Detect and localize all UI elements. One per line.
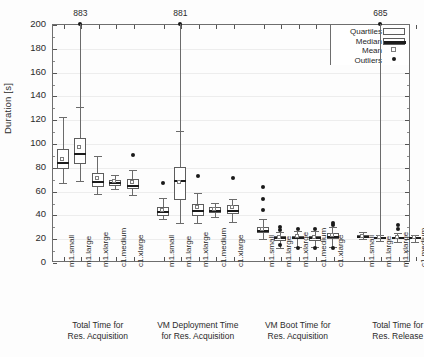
outlier-point xyxy=(296,246,300,250)
whisker-cap-upper xyxy=(159,198,167,199)
group-label-line1: Total Time for xyxy=(372,320,423,330)
whisker-cap-upper xyxy=(276,232,284,233)
group-label-line1: VM Boot Time for xyxy=(265,320,331,330)
y-axis-tick-label: 140 xyxy=(12,90,46,100)
whisker-cap-upper xyxy=(59,117,67,118)
value-annotation: 685 xyxy=(373,8,387,18)
box-plot xyxy=(92,24,104,262)
whisker-cap-upper xyxy=(194,193,202,194)
y-axis-minor-tick xyxy=(53,61,55,62)
outlier-point xyxy=(261,185,265,189)
value-annotation: 883 xyxy=(73,8,87,18)
box-plot xyxy=(209,24,221,262)
box-plot xyxy=(292,24,304,262)
x-axis-tick-label: c1.xlarge xyxy=(236,235,245,267)
outlier-point xyxy=(278,243,282,247)
whisker-cap-upper xyxy=(259,219,267,220)
chart-figure: Duration [s] QuartilesMedianMeanOutliers… xyxy=(0,0,424,357)
mean-marker xyxy=(412,235,416,239)
group-label-line2: Res. Release xyxy=(372,331,423,341)
y-axis-tick xyxy=(53,263,57,264)
whisker-cap-upper xyxy=(329,227,337,228)
group-label-line1: VM Deployment Time xyxy=(157,320,238,330)
outlier-point xyxy=(231,176,235,180)
whisker-cap-lower xyxy=(159,219,167,220)
whisker-cap-lower xyxy=(359,239,367,240)
whisker-cap-upper xyxy=(176,131,184,132)
mean-marker xyxy=(130,180,134,184)
whisker-cap-lower xyxy=(411,242,419,243)
y-axis-minor-tick xyxy=(53,204,55,205)
y-axis-minor-tick xyxy=(53,227,55,228)
whisker-cap-lower xyxy=(94,194,102,195)
y-axis-tick-label: 80 xyxy=(12,162,46,172)
y-axis-minor-tick xyxy=(53,251,55,252)
mean-marker xyxy=(277,235,281,239)
mean-marker xyxy=(160,208,164,212)
mean-marker xyxy=(230,205,234,209)
median-line xyxy=(227,210,239,212)
whisker-cap-lower xyxy=(176,223,184,224)
y-axis-minor-tick xyxy=(53,37,55,38)
mean-marker xyxy=(260,227,264,231)
outlier-point xyxy=(296,227,300,231)
box-plot xyxy=(74,24,86,262)
y-axis-tick-label: 0 xyxy=(12,257,46,267)
whisker-cap-lower xyxy=(129,195,137,196)
outlier-connector xyxy=(380,24,381,235)
whisker-cap-upper xyxy=(129,170,137,171)
median-line xyxy=(57,162,69,164)
y-axis-tick-label: 20 xyxy=(12,233,46,243)
quartile-box xyxy=(74,138,86,164)
x-axis-tick-label: c1.medium xyxy=(419,228,424,267)
y-axis-minor-tick xyxy=(53,156,55,157)
box-plot xyxy=(309,24,321,262)
whisker-cap-upper xyxy=(311,231,319,232)
box-plot xyxy=(392,24,404,262)
outlier-connector xyxy=(80,24,81,107)
mean-marker xyxy=(360,234,364,238)
mean-marker xyxy=(112,179,116,183)
y-axis-tick-label: 120 xyxy=(12,114,46,124)
mean-marker xyxy=(330,233,334,237)
mean-marker xyxy=(95,176,99,180)
median-line xyxy=(74,153,86,155)
outlier-point xyxy=(161,181,165,185)
y-axis-tick-label: 180 xyxy=(12,43,46,53)
whisker-cap-lower xyxy=(259,239,267,240)
y-axis-minor-tick xyxy=(53,180,55,181)
whisker-cap-upper xyxy=(94,156,102,157)
median-line xyxy=(127,185,139,187)
median-line xyxy=(192,210,204,212)
x-axis-group-label: VM Boot Time forRes. Acquisition xyxy=(248,320,348,342)
outlier-point xyxy=(196,174,200,178)
mean-marker xyxy=(195,205,199,209)
y-axis-minor-tick xyxy=(53,132,55,133)
box-plot xyxy=(274,24,286,262)
outlier-point xyxy=(331,246,335,250)
mean-marker xyxy=(77,145,81,149)
y-axis-minor-tick xyxy=(53,85,55,86)
group-label-line2: Res. Acquisition xyxy=(68,331,128,341)
group-label-line2: Res. Acquisition xyxy=(268,331,328,341)
whisker-cap-upper xyxy=(76,107,84,108)
box-plot xyxy=(409,24,421,262)
x-axis-group-label: Total Time forRes. Release xyxy=(348,320,424,342)
whisker-cap-lower xyxy=(194,223,202,224)
box-plot xyxy=(57,24,69,262)
y-axis-tick-label: 100 xyxy=(12,138,46,148)
box-plot xyxy=(357,24,369,262)
whisker-cap-lower xyxy=(59,183,67,184)
box-plot xyxy=(227,24,239,262)
outlier-point xyxy=(313,227,317,231)
box-plot xyxy=(174,24,186,262)
outlier-point xyxy=(331,221,335,225)
outlier-connector xyxy=(180,24,181,131)
outlier-point xyxy=(261,197,265,201)
y-axis-tick-label: 160 xyxy=(12,67,46,77)
group-label-line2: for Res. Acquisition xyxy=(161,331,234,341)
mean-marker xyxy=(295,234,299,238)
whisker-cap-upper xyxy=(211,203,219,204)
box-plot xyxy=(327,24,339,262)
whisker-cap-lower xyxy=(211,217,219,218)
